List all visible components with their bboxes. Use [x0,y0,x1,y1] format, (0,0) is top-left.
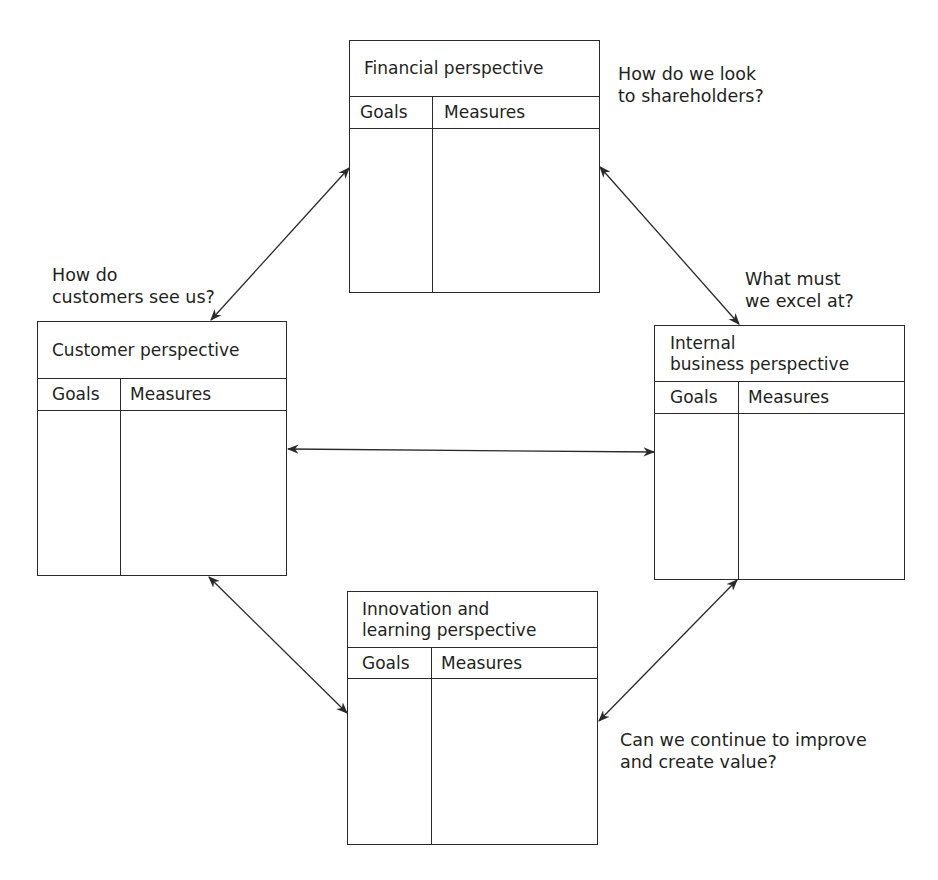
internal-business-perspective-box: Internal business perspective Goals Meas… [654,325,905,580]
goals-header: Goals [360,96,408,128]
column-divider [432,96,433,292]
measures-header: Measures [748,381,829,413]
measures-header: Measures [441,647,522,678]
financial-perspective-box: Financial perspective Goals Measures [349,40,600,293]
customer-perspective-title: Customer perspective [38,322,286,379]
goals-header: Goals [52,378,100,410]
arrow-internal-innovation [599,580,737,721]
arrow-financial-customer [211,168,349,320]
innovation-column-headers: Goals Measures [348,647,597,679]
internal-question: What must we excel at? [745,268,854,312]
financial-perspective-title: Financial perspective [350,41,599,97]
customer-question: How do customers see us? [52,264,215,308]
innovation-learning-perspective-box: Innovation and learning perspective Goal… [347,591,598,845]
measures-header: Measures [130,378,211,410]
customer-column-headers: Goals Measures [38,378,286,411]
column-divider [431,647,432,844]
internal-business-perspective-title: Internal business perspective [655,326,904,382]
innovation-question: Can we continue to improve and create va… [620,729,867,773]
goals-header: Goals [362,647,410,678]
financial-column-headers: Goals Measures [350,96,599,129]
innovation-learning-perspective-title: Innovation and learning perspective [348,592,597,648]
financial-question: How do we look to shareholders? [618,63,764,107]
internal-column-headers: Goals Measures [655,381,904,414]
column-divider [738,381,739,579]
goals-header: Goals [670,381,718,413]
measures-header: Measures [444,96,525,128]
arrow-customer-internal [288,449,654,452]
column-divider [120,378,121,575]
arrow-customer-innovation [209,577,347,713]
customer-perspective-box: Customer perspective Goals Measures [37,321,287,576]
arrow-financial-internal [600,167,739,324]
